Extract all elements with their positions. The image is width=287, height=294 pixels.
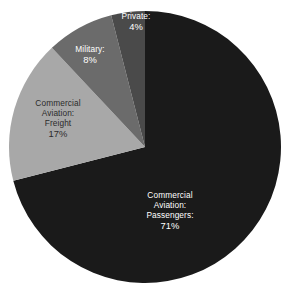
pie-chart-canvas xyxy=(0,0,287,294)
pie-slice-group xyxy=(9,11,281,283)
pie-chart: Commercial Aviation: Passengers: 71% Com… xyxy=(0,0,287,294)
